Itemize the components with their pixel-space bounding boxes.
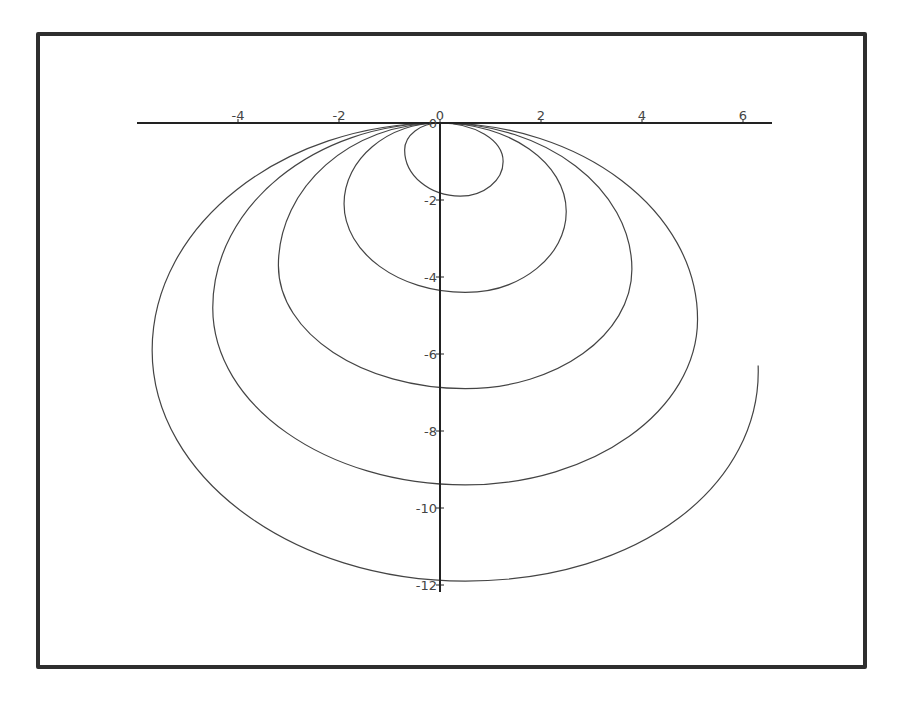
- y-tick-label: -2: [424, 193, 437, 208]
- y-tick-label: -8: [424, 424, 437, 439]
- y-tick-label: -6: [424, 347, 437, 362]
- y-tick-label: -10: [416, 501, 437, 516]
- spiral-loop-1: [405, 123, 503, 196]
- x-tick-label: -4: [232, 108, 245, 123]
- spiral-loop-3: [278, 123, 632, 389]
- plot-area: -4-20246 -2-4-6-8-10-120: [0, 0, 905, 707]
- spiral-loop-2: [344, 123, 566, 292]
- x-tick-label: 6: [739, 108, 747, 123]
- origin-label: 0: [429, 116, 437, 131]
- y-tick-label: -12: [416, 578, 437, 593]
- x-tick-label: 2: [537, 108, 545, 123]
- y-tick-label: -4: [424, 270, 437, 285]
- x-tick-label: -2: [333, 108, 346, 123]
- x-axis-ticks: -4-20246: [232, 108, 748, 123]
- x-tick-label: 0: [436, 108, 444, 123]
- spiral-curve: [152, 123, 758, 581]
- x-tick-label: 4: [638, 108, 646, 123]
- spiral-loop-5: [152, 123, 758, 581]
